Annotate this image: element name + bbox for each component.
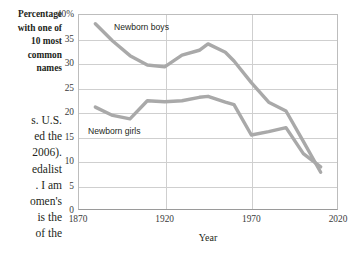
y-axis-tick-label: 40%: [34, 9, 74, 19]
y-axis-tick-label: 30: [34, 58, 74, 68]
x-axis-tick-label: 2020: [315, 214, 353, 224]
y-axis-tick-label: 35: [34, 34, 74, 44]
y-axis-tick-label: 10: [34, 156, 74, 166]
series-label-newborn-boys: Newborn boys: [114, 22, 169, 32]
x-axis-tick-label: 1970: [228, 214, 274, 224]
series-lines: [78, 14, 338, 210]
y-axis-tick-label: 15: [34, 132, 74, 142]
y-axis-tick-label: 5: [34, 181, 74, 191]
x-axis-tick-label: 1920: [142, 214, 188, 224]
series-label-newborn-girls: Newborn girls: [88, 126, 141, 136]
x-axis-tick-label: 1870: [55, 214, 101, 224]
y-axis-tick-label: 20: [34, 107, 74, 117]
line-chart: 0510152025303540% 1870192019702020 Newbo…: [0, 0, 353, 253]
y-axis-tick-label: 25: [34, 83, 74, 93]
book-page: s. U.S. ed the 2006). edalist . I am ome…: [0, 0, 353, 253]
x-axis-title: Year: [78, 232, 338, 243]
